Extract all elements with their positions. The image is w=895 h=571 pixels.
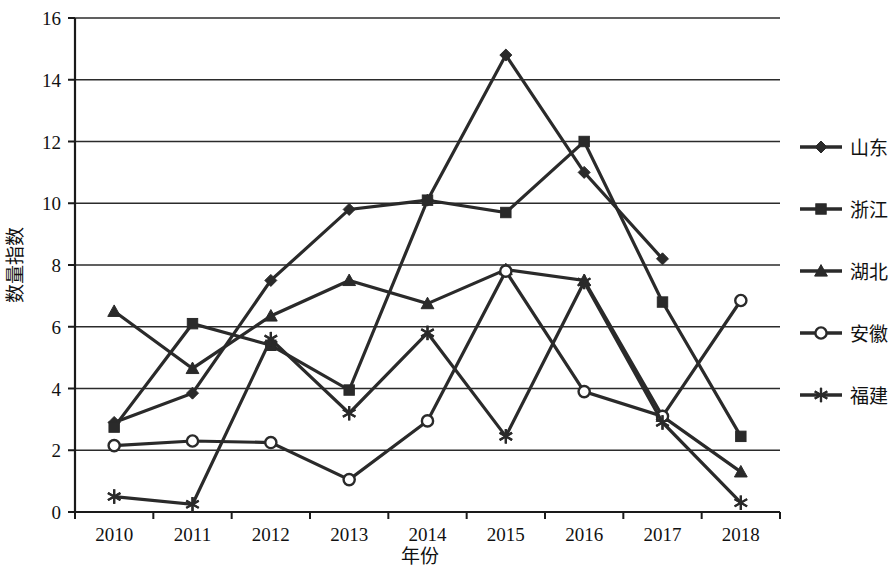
y-tick-label-12: 12 [42, 132, 61, 153]
x-tick-label-2011: 2011 [174, 524, 211, 545]
x-tick-label-2016: 2016 [565, 524, 603, 545]
y-tick-label-6: 6 [52, 317, 62, 338]
series-line-福建 [114, 282, 741, 504]
datapoint-浙江-2017 [657, 297, 667, 307]
legend-label-湖北: 湖北 [850, 262, 888, 283]
series-福建 [108, 275, 747, 512]
legend-item-湖北[interactable]: 湖北 [800, 262, 888, 283]
line-chart: 0246810121416 20102011201220132014201520… [0, 0, 895, 571]
chart-legend: 山东浙江湖北安徽福建 [800, 138, 888, 407]
datapoint-安徽-2011 [187, 435, 198, 446]
datapoint-浙江-2014 [422, 195, 432, 205]
datapoint-浙江-2016 [579, 136, 589, 146]
y-tick-label-10: 10 [42, 193, 61, 214]
y-tick-label-8: 8 [52, 255, 62, 276]
legend-label-山东: 山东 [850, 138, 888, 159]
chart-canvas: 0246810121416 20102011201220132014201520… [0, 0, 895, 571]
datapoint-安徽-2013 [344, 474, 355, 485]
datapoint-浙江-2013 [344, 385, 354, 395]
x-tick-label-2014: 2014 [409, 524, 448, 545]
x-tick-label-2012: 2012 [252, 524, 290, 545]
axis-ticks [68, 18, 780, 519]
legend-marker-square-icon [816, 204, 826, 214]
legend-label-浙江: 浙江 [850, 200, 888, 221]
datapoint-湖北-2010 [108, 305, 121, 317]
y-tick-label-0: 0 [52, 502, 62, 523]
datapoint-浙江-2011 [187, 318, 197, 328]
data-series-group [108, 49, 747, 511]
x-axis-title: 年份 [401, 546, 439, 567]
legend-item-安徽[interactable]: 安徽 [800, 324, 888, 345]
datapoint-安徽-2016 [579, 386, 590, 397]
x-tick-label-2010: 2010 [95, 524, 133, 545]
x-tick-label-2015: 2015 [487, 524, 525, 545]
datapoint-安徽-2012 [265, 437, 276, 448]
datapoint-浙江-2018 [736, 431, 746, 441]
gridlines [75, 18, 780, 512]
datapoint-安徽-2015 [500, 266, 511, 277]
legend-item-山东[interactable]: 山东 [800, 138, 888, 159]
x-tick-label-2013: 2013 [330, 524, 368, 545]
y-tick-label-16: 16 [42, 8, 61, 29]
datapoint-湖北-2013 [343, 274, 356, 286]
x-tick-label-2018: 2018 [722, 524, 760, 545]
datapoint-浙江-2015 [501, 207, 511, 217]
y-tick-label-14: 14 [42, 70, 62, 91]
legend-marker-diamond-icon [815, 141, 827, 153]
datapoint-安徽-2018 [735, 295, 746, 306]
y-tick-label-4: 4 [52, 379, 62, 400]
x-axis-tick-labels: 201020112012201320142015201620172018 [95, 524, 760, 545]
legend-item-浙江[interactable]: 浙江 [800, 200, 888, 221]
legend-label-安徽: 安徽 [850, 324, 888, 345]
series-湖北 [108, 263, 747, 477]
x-tick-label-2017: 2017 [644, 524, 682, 545]
legend-label-福建: 福建 [850, 386, 888, 407]
y-axis-title: 数量指数 [5, 227, 26, 303]
legend-item-福建[interactable]: 福建 [800, 386, 888, 407]
datapoint-安徽-2010 [109, 440, 120, 451]
y-tick-label-2: 2 [52, 440, 62, 461]
datapoint-浙江-2010 [109, 422, 119, 432]
y-axis-tick-labels: 0246810121416 [42, 8, 62, 523]
datapoint-安徽-2014 [422, 415, 433, 426]
legend-marker-circle-open-icon [815, 327, 826, 338]
